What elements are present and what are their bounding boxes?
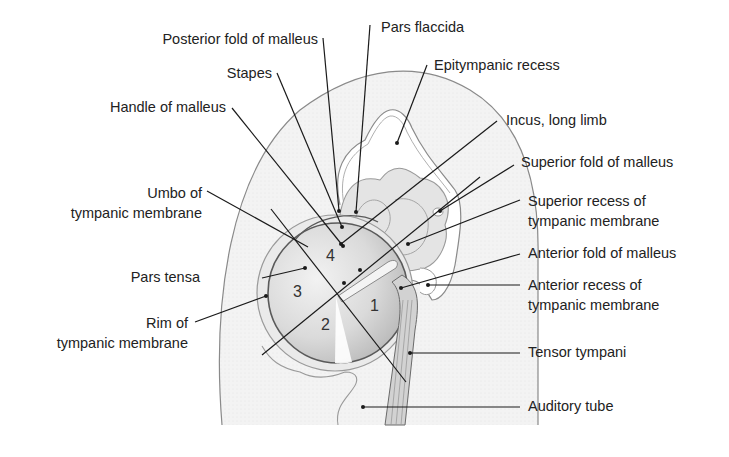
quadrant-4: 4: [326, 247, 335, 265]
label-rim-line1: Rim of: [100, 314, 188, 333]
label-superior-fold-of-malleus: Superior fold of malleus: [521, 153, 673, 172]
label-posterior-fold-of-malleus: Posterior fold of malleus: [136, 30, 318, 49]
quadrant-2: 2: [321, 316, 330, 334]
tympanic-membrane-diagram: Posterior fold of malleus Stapes Handle …: [0, 0, 729, 457]
label-rim-line2: tympanic membrane: [28, 334, 188, 353]
label-pars-flaccida: Pars flaccida: [381, 18, 464, 37]
label-pars-tensa: Pars tensa: [100, 268, 200, 287]
label-anterior-recess-line2: tympanic membrane: [528, 296, 659, 315]
label-superior-recess-line2: tympanic membrane: [528, 212, 659, 231]
label-umbo-line1: Umbo of: [100, 184, 202, 203]
label-tensor-tympani: Tensor tympani: [528, 343, 626, 362]
label-umbo-line2: tympanic membrane: [40, 204, 202, 223]
label-superior-recess-line1: Superior recess of: [528, 192, 646, 211]
label-stapes: Stapes: [200, 64, 272, 83]
label-handle-of-malleus: Handle of malleus: [88, 98, 226, 117]
quadrant-1: 1: [370, 297, 379, 315]
label-epitympanic-recess: Epitympanic recess: [434, 56, 560, 75]
label-incus-long-limb: Incus, long limb: [506, 111, 607, 130]
quadrant-3: 3: [293, 283, 302, 301]
label-anterior-recess-line1: Anterior recess of: [528, 276, 642, 295]
label-anterior-fold-of-malleus: Anterior fold of malleus: [528, 244, 676, 263]
label-auditory-tube: Auditory tube: [528, 397, 613, 416]
